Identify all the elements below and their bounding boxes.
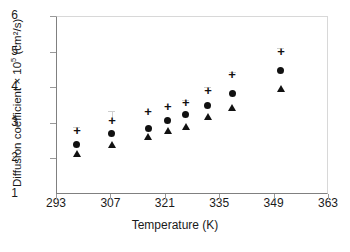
x-axis-title: Temperature (K)	[0, 218, 350, 232]
data-point-triangle	[73, 150, 81, 157]
y-axis-title-exponent: 5	[9, 58, 18, 62]
x-tick-mark-293	[56, 194, 57, 199]
data-point-plus: +	[181, 98, 191, 108]
data-point-triangle	[144, 133, 152, 140]
data-point-plus: +	[107, 116, 117, 126]
x-tick-mark-335	[219, 194, 220, 199]
data-point-plus: +	[143, 107, 153, 117]
x-tick-mark-321	[165, 194, 166, 199]
y-axis-title: Diffusion coefficient × 105 (cm²/s)	[9, 3, 23, 203]
data-point-circle	[145, 125, 152, 132]
x-tick-mark-307	[110, 194, 111, 199]
y-tick-mark-4	[50, 87, 56, 88]
y-tick-mark-2	[50, 158, 56, 159]
y-tick-label-1: 1	[0, 186, 18, 200]
y-tick-mark-5	[50, 52, 56, 53]
data-point-plus: +	[203, 86, 213, 96]
y-tick-mark-6	[50, 16, 56, 17]
data-point-plus: +	[163, 102, 173, 112]
y-tick-label-2: 2	[0, 150, 18, 164]
data-point-plus: +	[227, 70, 237, 80]
y-tick-label-5: 5	[0, 44, 18, 58]
y-axis-title-main: Diffusion coefficient	[11, 88, 23, 187]
y-tick-label-3: 3	[0, 115, 18, 129]
diffusion-coefficient-scatter-chart: Diffusion coefficient × 105 (cm²/s) Temp…	[0, 0, 350, 252]
plot-area	[56, 16, 328, 194]
data-point-triangle	[182, 123, 190, 130]
y-tick-mark-3	[50, 123, 56, 124]
error-bar-cap	[108, 111, 115, 112]
data-point-plus: +	[276, 47, 286, 57]
y-tick-label-4: 4	[0, 79, 18, 93]
data-point-circle	[229, 90, 236, 97]
x-tick-mark-363	[328, 194, 329, 199]
data-point-triangle	[164, 127, 172, 134]
y-tick-label-6: 6	[0, 8, 18, 22]
x-tick-mark-349	[274, 194, 275, 199]
data-point-triangle	[204, 113, 212, 120]
data-point-triangle	[228, 104, 236, 111]
data-point-triangle	[277, 85, 285, 92]
data-point-plus: +	[72, 126, 82, 136]
data-point-triangle	[108, 141, 116, 148]
